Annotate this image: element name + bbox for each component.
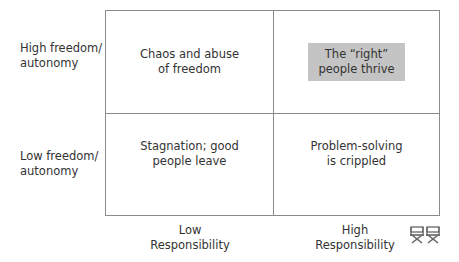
- quadrant-text-line: people leave: [140, 154, 239, 169]
- y-high-line-2: autonomy: [20, 56, 102, 71]
- quadrant-low-freedom-high-responsibility: Problem-solving is crippled: [274, 114, 439, 215]
- y-high-line-1: High freedom/: [20, 41, 102, 56]
- quadrant-text-line: people thrive: [318, 62, 394, 77]
- quadrant-text-line: The “right”: [318, 47, 394, 62]
- y-low-line-2: autonomy: [20, 164, 98, 179]
- x-low-line-1: Low: [130, 223, 250, 238]
- quadrant-high-freedom-low-responsibility: Chaos and abuse of freedom: [106, 11, 273, 113]
- x-axis-low-label: Low Responsibility: [130, 223, 250, 253]
- icon-group: [410, 226, 440, 244]
- quadrant-text-line: Stagnation; good: [140, 139, 239, 154]
- quadrant-text-line: of freedom: [140, 62, 239, 77]
- director-chair-icon: [426, 226, 440, 244]
- director-chair-icon: [410, 226, 424, 244]
- quadrant-low-freedom-low-responsibility: Stagnation; good people leave: [106, 114, 273, 215]
- y-axis-high-label: High freedom/ autonomy: [20, 41, 102, 71]
- x-high-line-1: High: [305, 223, 405, 238]
- quadrant-text-line: Chaos and abuse: [140, 47, 239, 62]
- quadrant-text-line: Problem-solving: [311, 139, 403, 154]
- y-low-line-1: Low freedom/: [20, 149, 98, 164]
- x-low-line-2: Responsibility: [130, 238, 250, 253]
- y-axis-low-label: Low freedom/ autonomy: [20, 149, 98, 179]
- quadrant-text-line: is crippled: [311, 154, 403, 169]
- highlight-box: The “right” people thrive: [308, 43, 404, 81]
- x-axis-high-label: High Responsibility: [305, 223, 405, 253]
- quadrant-high-freedom-high-responsibility: The “right” people thrive: [274, 11, 439, 113]
- x-high-line-2: Responsibility: [305, 238, 405, 253]
